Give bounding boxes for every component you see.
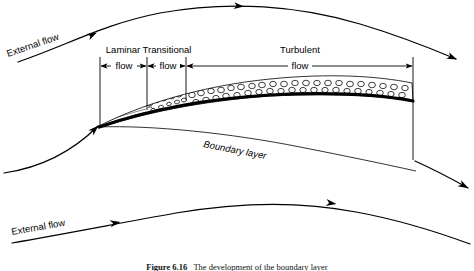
boundary-layer-envelope [99,76,413,128]
bottom-external-streamline [12,199,470,244]
figure-caption: Figure 6.16 The development of the bound… [146,262,328,271]
laminar-label-line2: flow [116,60,133,71]
boundary-layer-group [99,76,413,135]
arrowhead-icon [458,180,471,191]
caption-number: Figure 6.16 [146,262,187,271]
svg-text:Figure 6.16 The develo: Figure 6.16 The development of the bound… [146,262,328,271]
figure-container: Laminar flow Transitional flow Turbulent… [0,0,474,271]
caption-body: The development of the boundary layer [193,262,327,271]
leading-edge-streamline [4,123,101,173]
turbulent-label-line2: flow [292,60,309,71]
transitional-label-line1: Transitional [143,44,192,55]
arrowhead-icon [326,199,337,208]
transitional-label-line2: flow [160,60,177,71]
top-external-streamline [18,2,456,62]
turbulent-label-line1: Turbulent [280,44,320,55]
laminar-label-line1: Laminar [106,44,140,55]
trailing-streamline [415,161,470,191]
external-flow-top-label: External flow [5,31,60,59]
boundary-layer-diagram: Laminar flow Transitional flow Turbulent… [0,0,474,271]
external-flow-bottom-label: External flow [10,217,66,237]
region-annotations: Laminar flow Transitional flow Turbulent… [100,44,413,160]
streamlines-group [4,2,470,244]
boundary-layer-label: Boundary layer [203,138,269,161]
